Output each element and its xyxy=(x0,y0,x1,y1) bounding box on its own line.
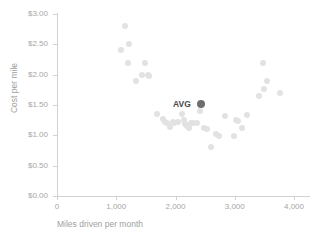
data-point[interactable] xyxy=(222,113,228,119)
data-point[interactable] xyxy=(186,125,192,131)
data-point[interactable] xyxy=(175,119,181,125)
data-point[interactable] xyxy=(204,126,210,132)
x-tick-label: 1,000 xyxy=(91,203,141,211)
x-axis-title: Miles driven per month xyxy=(57,219,143,229)
data-point[interactable] xyxy=(244,112,250,118)
y-axis-line xyxy=(57,13,58,197)
x-axis-line xyxy=(57,196,310,197)
data-point[interactable] xyxy=(277,90,283,96)
data-point[interactable] xyxy=(125,60,131,66)
y-tick-mark xyxy=(53,166,57,167)
data-point[interactable] xyxy=(208,144,214,150)
y-tick-mark xyxy=(53,75,57,76)
data-point[interactable] xyxy=(126,41,132,47)
data-point[interactable] xyxy=(139,72,145,78)
x-tick-label: 3,000 xyxy=(210,203,260,211)
data-point[interactable] xyxy=(260,60,266,66)
data-point[interactable] xyxy=(197,108,203,114)
x-tick-label: 2,000 xyxy=(151,203,201,211)
x-tick-mark xyxy=(57,196,58,200)
x-tick-label: 0 xyxy=(32,203,82,211)
data-point[interactable] xyxy=(154,111,160,117)
avg-data-point[interactable] xyxy=(197,100,205,108)
x-tick-mark xyxy=(294,196,295,200)
data-point[interactable] xyxy=(118,47,124,53)
data-point[interactable] xyxy=(133,78,139,84)
y-tick-label: $3.00 xyxy=(8,10,48,18)
x-tick-mark xyxy=(116,196,117,200)
data-point[interactable] xyxy=(239,125,245,131)
x-tick-mark xyxy=(176,196,177,200)
data-point[interactable] xyxy=(231,133,237,139)
scatter-chart: $3.00$2.50$2.00$1.50$1.00$0.50$0.00 01,0… xyxy=(0,0,332,242)
y-tick-label: $1.00 xyxy=(8,131,48,139)
y-tick-mark xyxy=(53,14,57,15)
y-tick-label: $0.00 xyxy=(8,192,48,200)
x-tick-mark xyxy=(235,196,236,200)
data-point[interactable] xyxy=(146,73,152,79)
data-point[interactable] xyxy=(256,93,262,99)
y-tick-mark xyxy=(53,135,57,136)
x-tick-label: 4,000 xyxy=(269,203,319,211)
y-tick-mark xyxy=(53,44,57,45)
data-point[interactable] xyxy=(194,120,200,126)
y-axis-title: Cost per mile xyxy=(9,48,19,128)
avg-label: AVG xyxy=(173,99,191,109)
y-tick-mark xyxy=(53,105,57,106)
data-point[interactable] xyxy=(142,60,148,66)
data-point[interactable] xyxy=(261,86,267,92)
data-point[interactable] xyxy=(122,23,128,29)
data-point[interactable] xyxy=(235,118,241,124)
data-point[interactable] xyxy=(264,78,270,84)
data-point[interactable] xyxy=(216,133,222,139)
y-tick-label: $0.50 xyxy=(8,162,48,170)
